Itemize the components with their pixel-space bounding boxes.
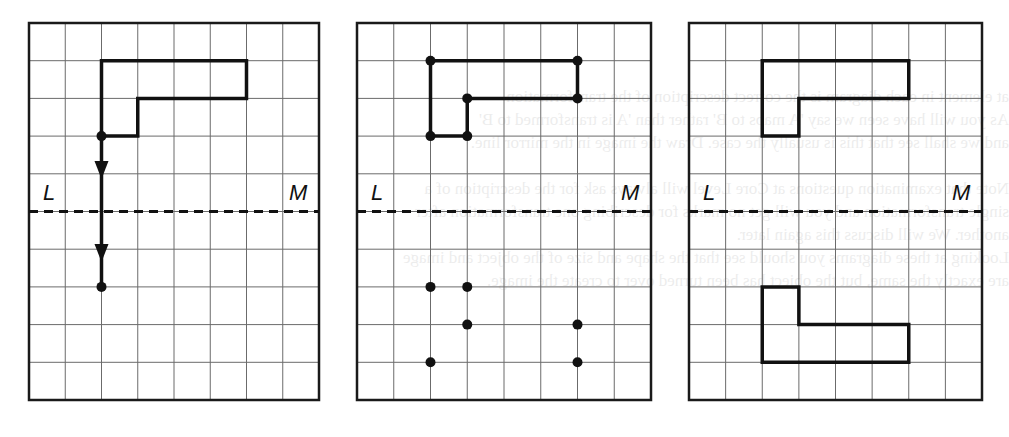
mirror-label-L: L bbox=[703, 180, 715, 205]
image-vertex-point bbox=[462, 282, 472, 292]
mirror-label-M: M bbox=[621, 180, 640, 205]
reflection-diagram: LM LM LM bbox=[0, 0, 1009, 437]
panel-plotted-points: LM bbox=[357, 23, 651, 400]
object-vertex-point bbox=[462, 131, 472, 141]
vertex-point bbox=[97, 131, 107, 141]
object-vertex-point bbox=[426, 56, 436, 66]
image-vertex-point bbox=[573, 357, 583, 367]
mirror-label-M: M bbox=[952, 180, 971, 205]
object-vertex-point bbox=[573, 56, 583, 66]
object-vertex-point bbox=[462, 93, 472, 103]
grid-lines bbox=[357, 23, 651, 400]
mirror-label-L: L bbox=[43, 180, 55, 205]
image-vertex-point bbox=[462, 320, 472, 330]
arrowhead-down-icon bbox=[95, 244, 109, 262]
image-vertex-point bbox=[426, 282, 436, 292]
object-vertex-point bbox=[573, 93, 583, 103]
image-vertex-point bbox=[426, 357, 436, 367]
arrowhead-down-icon bbox=[95, 161, 109, 179]
panel-completed-reflection: LM bbox=[689, 23, 982, 400]
vertex-point bbox=[97, 282, 107, 292]
mirror-label-L: L bbox=[371, 180, 383, 205]
object-vertex-point bbox=[426, 131, 436, 141]
mirror-label-M: M bbox=[289, 180, 308, 205]
image-vertex-point bbox=[573, 320, 583, 330]
panel-construction-line: LM bbox=[29, 23, 319, 400]
grid-lines bbox=[689, 23, 982, 400]
